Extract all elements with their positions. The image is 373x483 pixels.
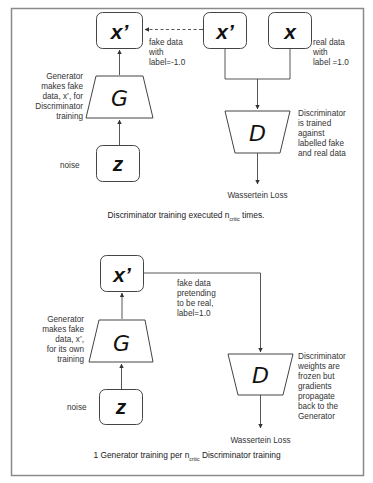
- svg-text:fake data: fake data: [149, 38, 183, 47]
- svg-text:Discriminator: Discriminator: [298, 109, 346, 118]
- noise-symbol: z: [112, 152, 124, 175]
- svg-text:and real data: and real data: [298, 149, 346, 158]
- generated-sample-symbol-2: x’: [112, 263, 132, 286]
- svg-text:Generator: Generator: [298, 412, 335, 421]
- svg-text:to be real,: to be real,: [177, 299, 213, 308]
- noise-box: z: [97, 146, 140, 182]
- noise-label-2: noise: [67, 403, 87, 412]
- svg-text:with: with: [148, 48, 164, 57]
- svg-text:weights are: weights are: [297, 362, 340, 371]
- generated-sample-box-2: x’: [101, 256, 144, 292]
- generator-block-2: G: [89, 320, 153, 362]
- svg-text:frozen but: frozen but: [298, 372, 335, 381]
- svg-text:data, x’, for: data, x’, for: [42, 92, 83, 101]
- generator-symbol: G: [111, 86, 128, 111]
- noise-label: noise: [60, 161, 80, 170]
- fake-input-symbol: x’: [215, 20, 235, 43]
- svg-text:fake data: fake data: [177, 279, 211, 288]
- discriminator-symbol-2: D: [252, 363, 269, 388]
- loss-label-2: Wassertein Loss: [230, 436, 290, 445]
- svg-text:real data: real data: [313, 38, 345, 47]
- svg-text:pretending: pretending: [177, 289, 216, 298]
- svg-text:label=1.0: label=1.0: [177, 309, 211, 318]
- wgan-training-diagram: x’ G z noise Generator makes fake data, …: [0, 0, 373, 483]
- svg-text:makes fake: makes fake: [41, 82, 83, 91]
- svg-text:training: training: [57, 355, 84, 364]
- generated-sample-symbol: x’: [110, 20, 130, 43]
- svg-text:Generator: Generator: [46, 72, 83, 81]
- svg-text:is trained: is trained: [298, 119, 332, 128]
- loss-label: Wassertein Loss: [227, 191, 287, 200]
- svg-text:with: with: [312, 48, 328, 57]
- svg-text:for its own: for its own: [47, 345, 85, 354]
- svg-text:propagate: propagate: [298, 392, 335, 401]
- svg-text:Discriminator: Discriminator: [35, 102, 83, 111]
- generator-symbol-2: G: [113, 331, 130, 356]
- generator-block: G: [86, 76, 153, 118]
- svg-text:label=-1.0: label=-1.0: [149, 58, 186, 67]
- svg-text:Generator: Generator: [47, 315, 84, 324]
- fake-input-box: x’: [204, 13, 247, 49]
- discriminator-block-2: D: [228, 354, 293, 395]
- fake-data-note-2: fake data pretending to be real, label=1…: [177, 279, 216, 318]
- panel2-caption: 1 Generator training per ncritic Discrim…: [93, 450, 281, 462]
- svg-text:makes fake: makes fake: [42, 325, 84, 334]
- discriminator-symbol: D: [249, 121, 266, 146]
- svg-text:against: against: [298, 129, 325, 138]
- svg-text:training: training: [56, 112, 83, 121]
- svg-text:data, x’,: data, x’,: [55, 335, 84, 344]
- generated-sample-box: x’: [97, 13, 143, 49]
- svg-text:gradients: gradients: [298, 382, 332, 391]
- svg-text:label =1.0: label =1.0: [313, 58, 349, 67]
- svg-text:labelled fake: labelled fake: [298, 139, 344, 148]
- noise-symbol-2: z: [115, 395, 127, 418]
- noise-box-2: z: [100, 390, 143, 425]
- panel1-caption: Discriminator training executed ncritic …: [108, 210, 265, 222]
- discriminator-block: D: [225, 111, 290, 153]
- real-input-symbol: x: [283, 20, 297, 43]
- svg-text:back to the: back to the: [298, 402, 339, 411]
- real-input-box: x: [269, 13, 312, 49]
- svg-text:Discriminator: Discriminator: [298, 352, 346, 361]
